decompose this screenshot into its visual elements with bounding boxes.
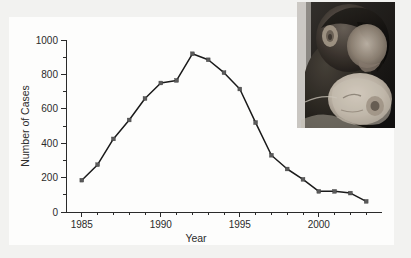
photograph-image [297,2,395,128]
data-point-marker [333,189,337,193]
y-tick-label: 1000 [36,35,59,46]
data-point-marker [349,191,353,195]
y-axis-title: Number of Cases [19,85,31,167]
chart-tick-labels: 020040060080010001985199019952000 [36,35,331,231]
data-point-marker [112,137,116,141]
data-point-marker [222,71,226,75]
data-point-marker [364,199,368,203]
x-tick-label: 2000 [308,219,331,230]
x-tick-label: 1985 [71,219,94,230]
y-tick-label: 0 [52,207,58,218]
figure-container: 020040060080010001985199019952000 Year N… [0,0,411,258]
data-point-marker [254,121,258,125]
data-point-marker [238,87,242,91]
data-point-marker [301,177,305,181]
x-tick-label: 1990 [150,219,173,230]
data-point-marker [159,81,163,85]
data-point-marker [175,79,179,83]
data-point-marker [270,153,274,157]
data-point-marker [285,167,289,171]
data-point-marker [206,58,210,62]
y-tick-label: 600 [41,103,58,114]
x-axis-title: Year [185,232,207,244]
photograph-mother-kissing-infant [297,2,395,128]
data-point-marker [143,97,147,101]
data-point-marker [191,52,195,56]
data-point-marker [96,163,100,167]
y-tick-label: 200 [41,172,58,183]
y-tick-label: 800 [41,69,58,80]
y-tick-label: 400 [41,138,58,149]
data-point-marker [317,189,321,193]
x-tick-label: 1995 [229,219,252,230]
data-point-marker [127,118,131,122]
data-point-marker [80,178,84,182]
